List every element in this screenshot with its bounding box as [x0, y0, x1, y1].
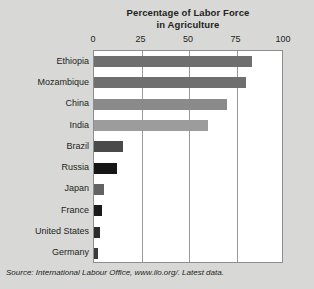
bar-russia [94, 163, 117, 174]
plot-area [93, 50, 283, 263]
chart-figure: Percentage of Labor Force in Agriculture… [0, 0, 314, 289]
category-label-japan: Japan [64, 183, 89, 193]
chart-title-line-2: in Agriculture [93, 19, 283, 31]
chart-title-line-1: Percentage of Labor Force [127, 7, 250, 18]
y-axis-category-labels: EthiopiaMozambiqueChinaIndiaBrazilRussia… [0, 50, 89, 263]
category-label-russia: Russia [61, 162, 89, 172]
bar-india [94, 120, 208, 131]
x-tick-label-50: 50 [183, 34, 193, 44]
bar-mozambique [94, 77, 246, 88]
x-tick-label-75: 75 [230, 34, 240, 44]
bar-japan [94, 184, 104, 195]
bar-france [94, 205, 102, 216]
source-note: Source: International Labour Office, www… [6, 268, 224, 277]
bar-ethiopia [94, 56, 252, 67]
bar-brazil [94, 141, 123, 152]
category-label-mozambique: Mozambique [37, 77, 89, 87]
chart-title: Percentage of Labor Force in Agriculture [93, 7, 283, 30]
bar-united-states [94, 227, 100, 238]
x-axis-tick-labels: 0255075100 [0, 34, 314, 48]
category-label-china: China [65, 98, 89, 108]
x-tick-label-25: 25 [135, 34, 145, 44]
category-label-brazil: Brazil [66, 141, 89, 151]
category-label-germany: Germany [52, 247, 89, 257]
bar-germany [94, 248, 98, 259]
bar-china [94, 99, 227, 110]
x-tick-label-100: 100 [275, 34, 290, 44]
category-label-united-states: United States [35, 226, 89, 236]
x-tick-label-0: 0 [90, 34, 95, 44]
category-label-india: India [69, 120, 89, 130]
category-label-ethiopia: Ethiopia [56, 56, 89, 66]
category-label-france: France [61, 205, 89, 215]
